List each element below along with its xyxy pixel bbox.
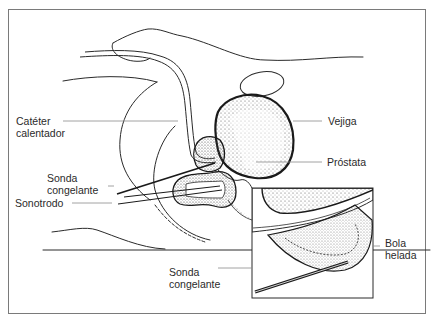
label-warming-catheter: Catéter calentador xyxy=(16,115,65,139)
label-prostate: Próstata xyxy=(327,156,366,168)
label-text: calentador xyxy=(16,127,65,139)
label-text: Sonda xyxy=(169,266,220,278)
label-freezing-probe-inset: Sonda congelante xyxy=(169,266,220,290)
label-text: Catéter xyxy=(16,115,65,127)
label-text: Sonotrodo xyxy=(15,197,63,209)
rectum xyxy=(173,172,252,220)
label-text: Vejiga xyxy=(328,115,357,127)
label-sonotrode: Sonotrodo xyxy=(15,197,63,209)
inset-magnified-view xyxy=(252,188,373,298)
bladder xyxy=(215,95,293,178)
label-text: Próstata xyxy=(327,156,366,168)
label-text: Sonda xyxy=(47,172,98,184)
label-text: helada xyxy=(385,249,417,261)
label-text: congelante xyxy=(47,184,98,196)
label-bladder: Vejiga xyxy=(328,115,357,127)
label-freezing-probe: Sonda congelante xyxy=(47,172,98,196)
label-ice-ball: Bola helada xyxy=(385,237,417,261)
label-text: Bola xyxy=(385,237,417,249)
label-text: congelante xyxy=(169,278,220,290)
